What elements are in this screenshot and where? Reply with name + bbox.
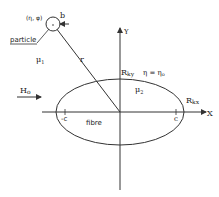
semi-axis-x-label: Rkx: [186, 96, 200, 105]
field-label: Ho: [20, 86, 31, 95]
x-axis-label: X: [207, 109, 213, 118]
distance-label: r: [80, 55, 84, 64]
particle-coord-label: (η, φ): [26, 14, 42, 22]
medium-outer-label: μ1: [36, 55, 44, 65]
particle-name-label: particle: [10, 36, 36, 44]
focus-left-label: -c: [61, 115, 68, 123]
medium-inner-label: μ2: [135, 85, 143, 95]
focus-right-label: c: [174, 115, 178, 123]
diagram-canvas: (η, φ) b particle μ1 r Ho Y X Rky η = ηo…: [0, 0, 219, 197]
semi-axis-y-label: Rky: [121, 68, 135, 78]
particle-circle: [46, 17, 60, 31]
y-axis-label: Y: [123, 28, 129, 36]
particle-radius-label: b: [60, 11, 65, 20]
particle-leader: [37, 29, 49, 43]
distance-line: [56, 28, 120, 112]
particle-center-dot: [52, 24, 54, 26]
fibre-label: fibre: [86, 119, 102, 127]
boundary-label: η = ηo: [143, 69, 165, 77]
